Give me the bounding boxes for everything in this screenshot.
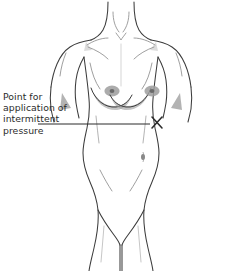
nipple-left	[110, 89, 115, 93]
neck-notch-right	[123, 12, 129, 32]
rib-flank-right	[143, 116, 146, 143]
navel	[141, 154, 145, 160]
body-detail-group	[60, 12, 182, 262]
nipple-right	[150, 89, 155, 93]
neck-left-outline	[91, 2, 108, 40]
anatomical-figure: Point for application of intermittent pr…	[0, 0, 233, 271]
axilla-shade-left-small	[84, 42, 92, 51]
arm-right-inner-outline	[158, 57, 167, 118]
groin-left-outline	[98, 210, 120, 245]
axilla-shade-right	[171, 93, 182, 110]
breast-group	[91, 86, 160, 110]
clavicle-left	[87, 38, 108, 45]
neck-notch-left	[113, 12, 119, 32]
cropped-caption-artifact	[0, 264, 233, 271]
thigh-left-inner	[101, 226, 104, 262]
clavicle-right	[134, 38, 155, 45]
iliac-crest-left	[100, 170, 112, 191]
iliac-crest-right	[130, 170, 142, 191]
body-outline-group	[50, 2, 192, 271]
axilla-shade-right-small	[150, 42, 158, 51]
navel-group	[141, 152, 145, 162]
thigh-right-inner	[138, 226, 141, 262]
arm-right-outer-outline	[188, 87, 192, 122]
breast-left-upper	[90, 63, 100, 89]
neck-right-outline	[134, 2, 151, 40]
groin-right-outline	[122, 210, 144, 245]
annotation-label: Point for application of intermittent pr…	[3, 91, 79, 136]
rib-flank-left	[96, 116, 99, 143]
breast-right-upper	[142, 63, 152, 89]
torso-left-outline	[83, 57, 98, 271]
sternal-notch	[116, 33, 126, 40]
